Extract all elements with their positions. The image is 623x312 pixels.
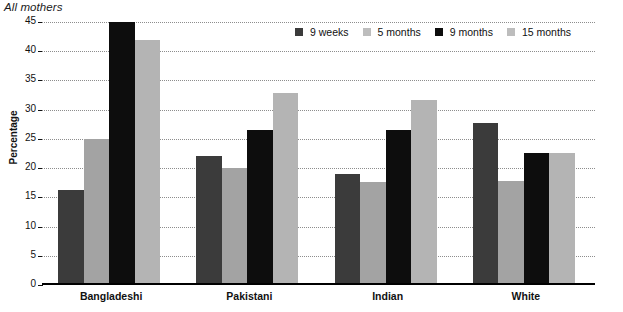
x-axis-line: [42, 283, 595, 285]
bar-white-5-months: [498, 181, 524, 285]
chart-title: All mothers: [4, 1, 63, 13]
y-tick-label-35: 35: [12, 73, 36, 84]
bar-bangladeshi-9-weeks: [58, 190, 84, 285]
bar-group-indian: [335, 22, 437, 285]
bar-white-9-weeks: [473, 123, 499, 285]
category-label-bangladeshi: Bangladeshi: [42, 290, 180, 302]
legend-label: 9 months: [450, 26, 493, 38]
bar-groups: [42, 22, 595, 285]
y-tick-mark-0: [38, 285, 43, 286]
bar-indian-15-months: [411, 100, 437, 285]
bar-bangladeshi-15-months: [135, 40, 161, 285]
bar-group-pakistani: [196, 22, 298, 285]
bar-pakistani-15-months: [273, 93, 299, 285]
y-tick-label-0: 0: [12, 278, 36, 289]
legend-item-9-weeks[interactable]: 9 weeks: [295, 26, 349, 38]
y-tick-label-45: 45: [12, 15, 36, 26]
bar-pakistani-5-months: [222, 168, 248, 285]
category-labels: BangladeshiPakistaniIndianWhite: [42, 290, 595, 308]
legend-item-9-months[interactable]: 9 months: [435, 26, 493, 38]
legend-swatch-icon: [363, 28, 371, 36]
bar-bangladeshi-9-months: [109, 22, 135, 285]
y-tick-label-25: 25: [12, 132, 36, 143]
y-tick-label-5: 5: [12, 249, 36, 260]
legend-label: 9 weeks: [310, 26, 349, 38]
bar-group-white: [473, 22, 575, 285]
bar-indian-5-months: [360, 182, 386, 285]
legend-swatch-icon: [295, 28, 303, 36]
y-tick-label-10: 10: [12, 220, 36, 231]
bar-white-15-months: [549, 153, 575, 285]
bar-indian-9-weeks: [335, 174, 361, 285]
bar-indian-9-months: [386, 130, 412, 285]
legend-label: 5 months: [378, 26, 421, 38]
legend-swatch-icon: [435, 28, 443, 36]
bar-pakistani-9-months: [247, 130, 273, 285]
bar-chart: All mothers Percentage 05101520253035404…: [0, 0, 623, 312]
y-tick-label-20: 20: [12, 161, 36, 172]
legend-item-5-months[interactable]: 5 months: [363, 26, 421, 38]
y-tick-label-30: 30: [12, 103, 36, 114]
bar-white-9-months: [524, 153, 550, 285]
bar-pakistani-9-weeks: [196, 156, 222, 285]
chart-legend: 9 weeks5 months9 months15 months: [295, 26, 585, 38]
y-tick-label-40: 40: [12, 44, 36, 55]
bar-group-bangladeshi: [58, 22, 160, 285]
category-label-indian: Indian: [319, 290, 457, 302]
category-label-white: White: [457, 290, 595, 302]
plot-area: [42, 22, 595, 285]
category-label-pakistani: Pakistani: [180, 290, 318, 302]
bar-bangladeshi-5-months: [84, 139, 110, 285]
legend-item-15-months[interactable]: 15 months: [507, 26, 571, 38]
legend-swatch-icon: [507, 28, 515, 36]
y-tick-label-15: 15: [12, 190, 36, 201]
legend-label: 15 months: [522, 26, 571, 38]
